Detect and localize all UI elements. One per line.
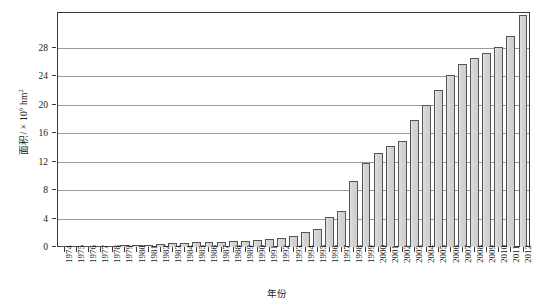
x-axis-label-cell: 1983 [167, 252, 179, 288]
x-axis-label-cell: 2002 [396, 252, 408, 288]
y-axis-tick-mark [52, 189, 56, 190]
y-axis-tick-mark [52, 132, 56, 133]
bar-cell [517, 12, 529, 247]
bar [494, 47, 503, 247]
bar-cell [457, 12, 469, 247]
x-axis-label-cell: 1999 [360, 252, 372, 288]
bar-cell [239, 12, 251, 247]
x-axis-label-cell: 2001 [384, 252, 396, 288]
bar-cell [179, 12, 191, 247]
x-axis-label-cell: 1986 [203, 252, 215, 288]
x-axis-label-cell: 1981 [143, 252, 155, 288]
bar [398, 141, 407, 247]
bar-cell [155, 12, 167, 247]
x-axis-label-cell: 2012 [517, 252, 529, 288]
bar-cell [348, 12, 360, 247]
bar-cell [324, 12, 336, 247]
x-axis-label-cell: 1989 [239, 252, 251, 288]
y-axis-tick-label: 4 [14, 214, 48, 224]
x-axis-label-cell: 1982 [155, 252, 167, 288]
x-axis-label-cell: 2007 [457, 252, 469, 288]
bar-cell [360, 12, 372, 247]
x-axis-label-cell: 1995 [312, 252, 324, 288]
bar-cell [505, 12, 517, 247]
bar [422, 105, 431, 247]
bar-cell [469, 12, 481, 247]
y-axis-tick-label: 12 [14, 157, 48, 167]
x-axis-label-cell: 1990 [251, 252, 263, 288]
bar [470, 58, 479, 247]
bar [325, 217, 334, 247]
bar [446, 75, 455, 247]
y-axis-tick-label: 28 [14, 43, 48, 53]
x-axis-label-cell: 1979 [118, 252, 130, 288]
x-axis-label-cell: 1985 [191, 252, 203, 288]
bar-cell [58, 12, 70, 247]
bar-cell [130, 12, 142, 247]
bar-cell [372, 12, 384, 247]
bar-cell [167, 12, 179, 247]
x-axis-label-cell: 1997 [336, 252, 348, 288]
bar-cell [396, 12, 408, 247]
x-axis-tick-label: 2012 [523, 245, 533, 263]
x-axis-label-cell: 1980 [130, 252, 142, 288]
x-axis-label-cell: 2008 [469, 252, 481, 288]
y-axis-tick-label: 8 [14, 185, 48, 195]
x-axis-label-cell: 1988 [227, 252, 239, 288]
y-axis-tick-mark [52, 246, 56, 247]
bar-cell [191, 12, 203, 247]
x-axis-label-cell: 2000 [372, 252, 384, 288]
bar [362, 163, 371, 247]
y-axis-title-unit-exponent: 2 [17, 89, 24, 92]
bar-cell [493, 12, 505, 247]
bar-cell [287, 12, 299, 247]
x-axis-label-cell: 1996 [324, 252, 336, 288]
bar-cell [336, 12, 348, 247]
y-axis-tick-mark [52, 104, 56, 105]
y-axis-tick-label: 0 [14, 242, 48, 252]
y-axis-tick-mark [52, 75, 56, 76]
bar [337, 211, 346, 247]
bar-cell [263, 12, 275, 247]
bar-cell [300, 12, 312, 247]
bar-cell [106, 12, 118, 247]
bar [374, 153, 383, 247]
x-axis-label-cell: 2006 [445, 252, 457, 288]
x-axis-label-cell: 2010 [493, 252, 505, 288]
x-axis-label-cell: 2009 [481, 252, 493, 288]
bar-cell [143, 12, 155, 247]
x-axis-label-cell: 1974 [58, 252, 70, 288]
x-axis-label-cell: 2011 [505, 252, 517, 288]
x-axis-label-cell: 1977 [94, 252, 106, 288]
y-axis-tick-label: 24 [14, 71, 48, 81]
bar [349, 181, 358, 247]
y-axis-tick-mark [52, 161, 56, 162]
x-axis-label-cell: 1998 [348, 252, 360, 288]
bar-cell [408, 12, 420, 247]
bar-cell [203, 12, 215, 247]
bar-cell [384, 12, 396, 247]
bar-cell [70, 12, 82, 247]
bar-cell [215, 12, 227, 247]
bar-cell [481, 12, 493, 247]
bar-cell [82, 12, 94, 247]
x-axis-label-cell: 1993 [287, 252, 299, 288]
y-axis-tick-mark [52, 47, 56, 48]
x-axis-label-cell: 1976 [82, 252, 94, 288]
bar [458, 64, 467, 247]
x-axis-label-cell: 2003 [408, 252, 420, 288]
bar-cell [227, 12, 239, 247]
bar [519, 15, 528, 247]
x-axis-label-cell: 1994 [300, 252, 312, 288]
bar-cell [275, 12, 287, 247]
bar [506, 36, 515, 247]
bar-cell [432, 12, 444, 247]
bar-cell [251, 12, 263, 247]
bar-chart: 面积/ × 106 hm2 0481216202428 197419751976… [0, 0, 554, 301]
y-axis-tick-label: 16 [14, 128, 48, 138]
bar-cell [312, 12, 324, 247]
x-axis-label-cell: 1984 [179, 252, 191, 288]
bar-cell [94, 12, 106, 247]
x-axis-label-cell: 1987 [215, 252, 227, 288]
x-axis-label-cell: 1992 [275, 252, 287, 288]
